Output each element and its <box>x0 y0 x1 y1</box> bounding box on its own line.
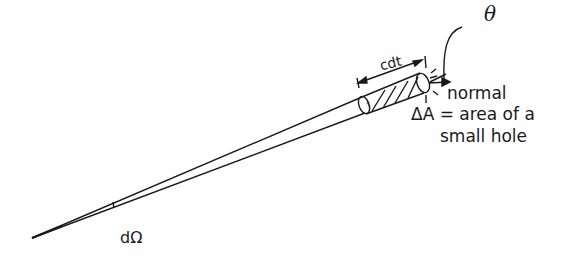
cone-upper-edge <box>32 97 362 238</box>
ray-3 <box>430 76 437 78</box>
cone-apex <box>32 226 62 238</box>
cdt-arrow-right <box>413 60 422 66</box>
hatch-2 <box>383 86 396 108</box>
ray-2 <box>433 91 438 95</box>
cdt-arrow-left <box>358 77 367 83</box>
area-label-line2: small hole <box>440 126 527 146</box>
cdt-left-tick <box>357 78 359 88</box>
solid-angle-label: dΩ <box>120 228 142 247</box>
cone-tick <box>113 202 114 208</box>
normal-label: normal <box>447 83 507 103</box>
cdt-right-tick <box>425 56 426 68</box>
cone-lower-edge <box>32 113 365 238</box>
ray-1 <box>431 69 436 73</box>
area-label-line1: ΔA = area of a <box>411 104 535 124</box>
cylinder-left-end <box>356 95 372 115</box>
theta-leader <box>444 27 462 80</box>
hatch-4 <box>408 77 418 98</box>
theta-label: θ <box>484 2 496 26</box>
